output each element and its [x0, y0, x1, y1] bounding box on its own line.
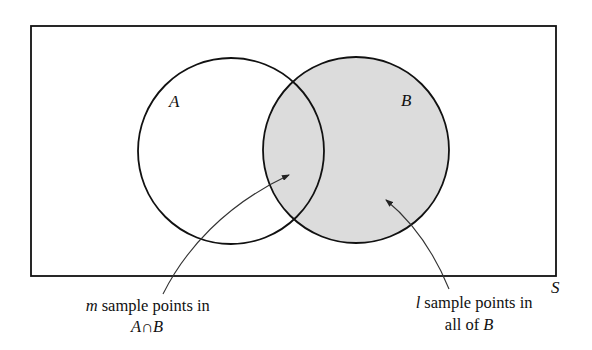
venn-diagram: A B S m sample points in A∩B l sample po… — [0, 0, 592, 350]
intersection-symbol: ∩ — [141, 317, 153, 336]
set-b-caption-text: sample points in — [420, 293, 532, 312]
set-b-shaded-fill — [263, 57, 449, 243]
set-b-label: B — [401, 91, 412, 110]
intersection-set-b: B — [153, 317, 163, 336]
set-b-caption-all-of: all of — [445, 315, 484, 334]
set-b-caption-set: B — [483, 315, 493, 334]
universe-label: S — [551, 278, 560, 297]
intersection-caption-line2: A∩B — [110, 317, 175, 336]
set-b-caption-line2: all of B — [424, 315, 506, 334]
set-b-caption-line1: l sample points in — [395, 293, 545, 312]
intersection-count-variable: m — [86, 296, 98, 315]
set-a-label: A — [168, 92, 180, 111]
intersection-caption-line1: m sample points in — [65, 296, 222, 315]
intersection-caption-text: sample points in — [98, 296, 210, 315]
